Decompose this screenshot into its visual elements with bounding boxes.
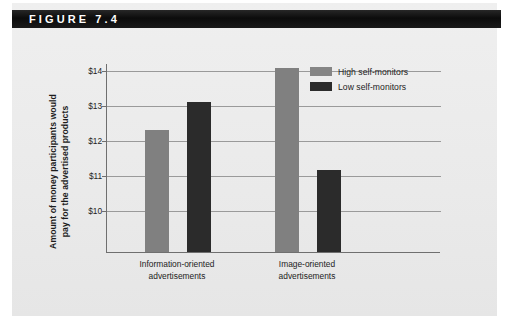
bar: [145, 130, 169, 253]
bar-chart: Amount of money participants would pay f…: [0, 0, 509, 324]
legend-label: High self-monitors: [338, 67, 408, 77]
x-axis-category-label-line: advertisements: [232, 271, 382, 283]
y-axis-title-line-2: pay for the advertised products: [59, 67, 71, 277]
x-axis-category-label-line: advertisements: [102, 271, 252, 283]
y-axis-title-line-1: Amount of money participants would: [48, 67, 60, 277]
legend-item: High self-monitors: [310, 66, 408, 77]
y-axis-tick-label: $12: [72, 136, 102, 146]
y-axis-tick-label: $11: [72, 171, 102, 181]
bar: [275, 68, 299, 252]
legend-swatch: [310, 67, 332, 76]
y-axis-title: Amount of money participants would pay f…: [48, 67, 71, 277]
chart-legend: High self-monitorsLow self-monitors: [310, 66, 408, 96]
x-axis-category-label-line: Information-oriented: [102, 259, 252, 271]
y-axis-tick-labels: $14$13$12$11$10: [70, 64, 102, 253]
x-axis-category-label-line: Image-oriented: [232, 259, 382, 271]
y-axis-tick-label: $13: [72, 101, 102, 111]
y-axis-tick-label: $14: [72, 66, 102, 76]
bar: [187, 102, 211, 253]
bar: [317, 170, 341, 252]
x-axis-category-label: Information-orientedadvertisements: [102, 259, 252, 282]
gridline: [107, 106, 441, 107]
legend-swatch: [310, 82, 332, 91]
legend-label: Low self-monitors: [338, 82, 406, 92]
y-axis-tick-label: $10: [72, 206, 102, 216]
legend-item: Low self-monitors: [310, 81, 408, 92]
x-axis-category-label: Image-orientedadvertisements: [232, 259, 382, 282]
